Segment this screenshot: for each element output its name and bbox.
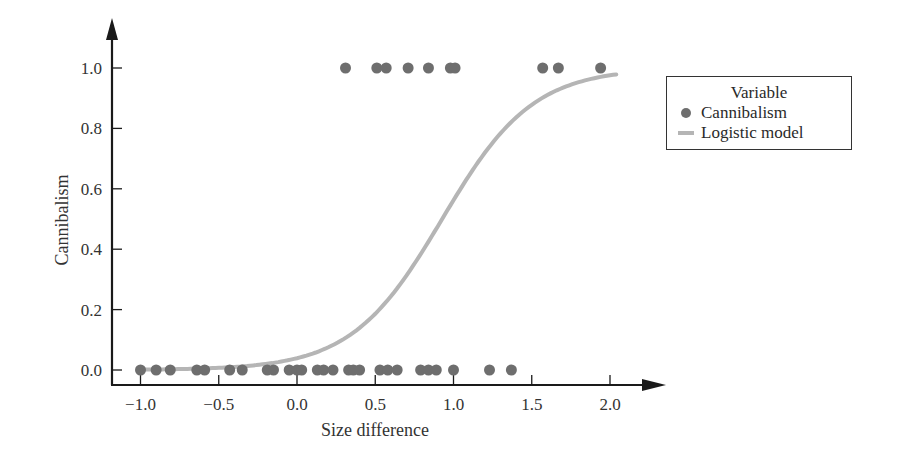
data-point [340, 63, 351, 74]
data-point [553, 63, 564, 74]
x-tick-label: 2.0 [599, 395, 620, 414]
data-point [381, 63, 392, 74]
data-point [199, 365, 210, 376]
data-point [354, 365, 365, 376]
data-point [296, 365, 307, 376]
data-point [448, 365, 459, 376]
data-point [135, 365, 146, 376]
x-axis-title: Size difference [321, 420, 429, 440]
data-point [237, 365, 248, 376]
legend-title: Variable [667, 83, 851, 103]
data-point [318, 365, 329, 376]
y-tick-label: 0.4 [81, 240, 103, 259]
line-marker-icon [678, 131, 694, 135]
y-tick-label: 0.2 [81, 301, 102, 320]
chart-canvas: −1.0−0.50.00.51.01.52.00.00.20.40.60.81.… [0, 0, 899, 453]
legend-entry-logistic-model: Logistic model [677, 123, 803, 143]
data-point [403, 63, 414, 74]
data-point [450, 63, 461, 74]
data-point [165, 365, 176, 376]
y-tick-label: 0.8 [81, 119, 102, 138]
x-axis-arrow-icon [642, 379, 666, 391]
data-point [595, 63, 606, 74]
data-point [268, 365, 279, 376]
data-point [423, 63, 434, 74]
x-tick-label: −0.5 [203, 395, 234, 414]
data-point [151, 365, 162, 376]
data-point [392, 365, 403, 376]
x-tick-label: 1.5 [521, 395, 542, 414]
y-axis-title: Cannibalism [52, 175, 72, 266]
logistic-model-line [141, 74, 617, 369]
data-point [371, 63, 382, 74]
logistic-curve [141, 74, 617, 369]
data-point [506, 365, 517, 376]
y-tick-label: 0.0 [81, 361, 102, 380]
data-point [327, 365, 338, 376]
data-point [431, 365, 442, 376]
legend-label: Cannibalism [701, 103, 787, 123]
data-point [484, 365, 495, 376]
data-point [537, 63, 548, 74]
legend-entry-cannibalism: Cannibalism [677, 103, 787, 123]
legend: Variable Cannibalism Logistic model [666, 76, 852, 150]
x-tick-label: 1.0 [443, 395, 464, 414]
axes: −1.0−0.50.00.51.01.52.00.00.20.40.60.81.… [81, 18, 666, 414]
data-points [135, 63, 606, 376]
x-tick-label: 0.0 [286, 395, 307, 414]
data-point [224, 365, 235, 376]
y-tick-label: 0.6 [81, 180, 102, 199]
data-point [382, 365, 393, 376]
x-tick-label: −1.0 [125, 395, 156, 414]
y-axis-arrow-icon [106, 18, 118, 40]
dot-marker-icon [681, 108, 691, 118]
y-tick-label: 1.0 [81, 59, 102, 78]
x-tick-label: 0.5 [365, 395, 386, 414]
legend-label: Logistic model [701, 123, 803, 143]
